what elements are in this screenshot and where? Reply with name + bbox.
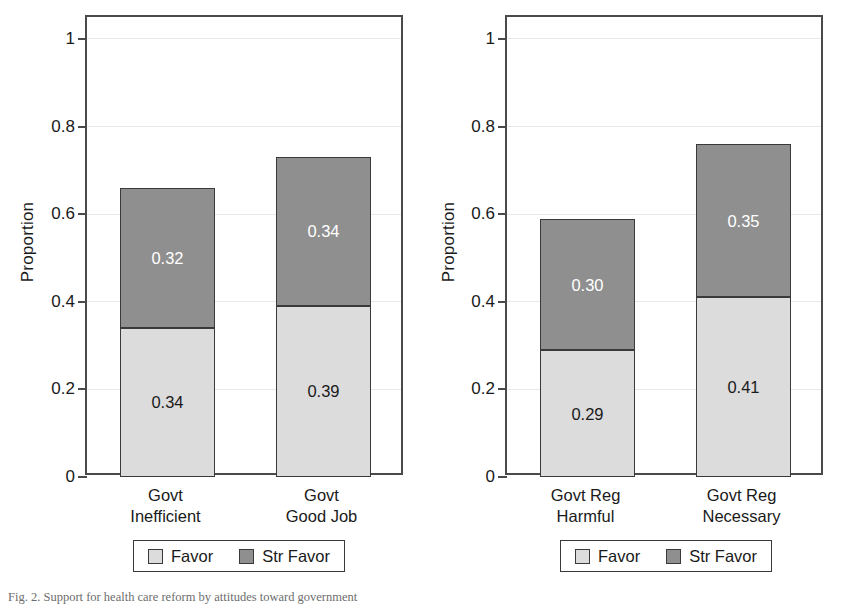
category-label-line-2: Necessary — [654, 506, 829, 527]
y-axis-tick-mark — [78, 476, 87, 478]
category-label-line-2: Harmful — [498, 506, 673, 527]
y-axis-tick-label: 0.6 — [23, 205, 75, 222]
legend-item-favor[interactable]: Favor — [148, 548, 213, 565]
legend-item-str-favor[interactable]: Str Favor — [666, 548, 757, 565]
figure-container: Proportion 00.20.40.60.810.340.320.390.3… — [0, 0, 841, 604]
bar-segment-str-favor[interactable]: 0.34 — [276, 157, 371, 306]
chart-panel-left: Proportion 00.20.40.60.810.340.320.390.3… — [0, 0, 420, 604]
bar-value-label-favor: 0.34 — [121, 394, 214, 411]
chart-panel-right: Proportion 00.20.40.60.810.290.300.410.3… — [421, 0, 841, 604]
category-label-line-2: Good Job — [234, 506, 409, 527]
y-axis-tick-mark — [498, 126, 507, 128]
category-label-line-2: Inefficient — [78, 506, 253, 527]
y-axis-tick-mark — [498, 476, 507, 478]
gridline — [507, 38, 821, 39]
y-axis-tick-label: 0.8 — [443, 118, 495, 135]
legend-label: Favor — [598, 548, 640, 565]
y-axis-tick-mark — [78, 213, 87, 215]
x-axis-category-label: GovtGood Job — [234, 485, 409, 527]
bar-segment-favor[interactable]: 0.41 — [696, 297, 791, 477]
bar-value-label-favor: 0.39 — [277, 383, 370, 400]
legend-swatch-icon — [148, 549, 163, 564]
y-axis-tick-mark — [78, 301, 87, 303]
bar-value-label-favor: 0.41 — [697, 379, 790, 396]
bar-segment-str-favor[interactable]: 0.32 — [120, 188, 215, 328]
gridline — [87, 38, 401, 39]
y-axis-tick-label: 1 — [443, 30, 495, 47]
y-axis-tick-mark — [498, 38, 507, 40]
y-axis-tick-label: 0.2 — [23, 380, 75, 397]
legend-label: Favor — [171, 548, 213, 565]
category-label-line-1: Govt Reg — [498, 485, 673, 506]
gridline — [87, 126, 401, 127]
y-axis-tick-label: 0.2 — [443, 380, 495, 397]
y-axis-tick-mark — [498, 301, 507, 303]
y-axis-tick-label: 0 — [23, 468, 75, 485]
figure-caption: Fig. 2. Support for health care reform b… — [8, 590, 833, 604]
x-axis-category-label: GovtInefficient — [78, 485, 253, 527]
category-label-line-1: Govt — [234, 485, 409, 506]
bar-segment-str-favor[interactable]: 0.35 — [696, 144, 791, 297]
y-axis-tick-label: 0 — [443, 468, 495, 485]
plot-frame-left: 00.20.40.60.810.340.320.390.34 — [85, 15, 403, 475]
legend-item-str-favor[interactable]: Str Favor — [239, 548, 330, 565]
bar-segment-str-favor[interactable]: 0.30 — [540, 219, 635, 350]
y-axis-tick-label: 0.8 — [23, 118, 75, 135]
legend-item-favor[interactable]: Favor — [575, 548, 640, 565]
y-axis-tick-mark — [498, 213, 507, 215]
plot-frame-right: 00.20.40.60.810.290.300.410.35 — [505, 15, 823, 475]
y-axis-tick-mark — [78, 38, 87, 40]
legend-swatch-icon — [666, 549, 681, 564]
y-axis-tick-label: 1 — [23, 30, 75, 47]
bar-value-label-str-favor: 0.32 — [121, 250, 214, 267]
y-axis-tick-mark — [78, 126, 87, 128]
category-label-line-1: Govt — [78, 485, 253, 506]
legend-right: FavorStr Favor — [560, 540, 772, 572]
legend-swatch-icon — [575, 549, 590, 564]
legend-label: Str Favor — [689, 548, 757, 565]
bar-segment-favor[interactable]: 0.34 — [120, 328, 215, 477]
gridline — [507, 126, 821, 127]
legend-left: FavorStr Favor — [133, 540, 345, 572]
bar-value-label-favor: 0.29 — [541, 406, 634, 423]
y-axis-tick-mark — [498, 388, 507, 390]
bar-segment-favor[interactable]: 0.39 — [276, 306, 371, 477]
category-label-line-1: Govt Reg — [654, 485, 829, 506]
legend-label: Str Favor — [262, 548, 330, 565]
bar-value-label-str-favor: 0.34 — [277, 223, 370, 240]
y-axis-tick-label: 0.4 — [23, 293, 75, 310]
y-axis-tick-label: 0.4 — [443, 293, 495, 310]
legend-swatch-icon — [239, 549, 254, 564]
bar-value-label-str-favor: 0.35 — [697, 213, 790, 230]
x-axis-category-label: Govt RegNecessary — [654, 485, 829, 527]
y-axis-tick-label: 0.6 — [443, 205, 495, 222]
bar-segment-favor[interactable]: 0.29 — [540, 350, 635, 477]
bar-value-label-str-favor: 0.30 — [541, 277, 634, 294]
x-axis-category-label: Govt RegHarmful — [498, 485, 673, 527]
y-axis-tick-mark — [78, 388, 87, 390]
